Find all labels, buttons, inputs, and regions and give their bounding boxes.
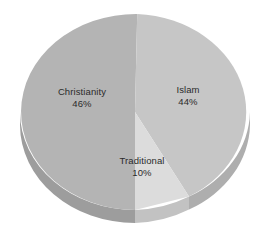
pie-chart-figure: Christianity 46% Islam 44% Traditional 1… <box>0 0 268 231</box>
pie-slice-christianity <box>21 14 137 210</box>
pie-chart-graphic <box>0 0 268 231</box>
pie-top-face <box>21 14 246 210</box>
